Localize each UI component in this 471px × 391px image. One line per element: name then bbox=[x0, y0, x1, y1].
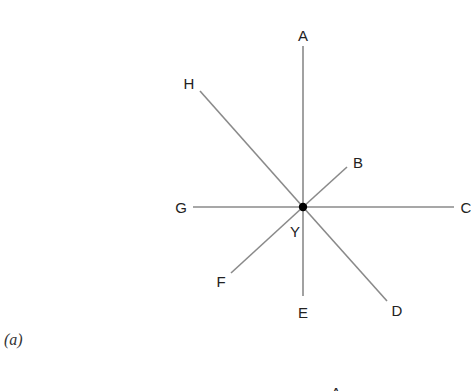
ray-y-d bbox=[303, 207, 387, 301]
next-figure-partial-label: A bbox=[331, 384, 341, 391]
point-label-h: H bbox=[184, 75, 195, 92]
ray-y-h bbox=[200, 91, 303, 207]
figure-caption: (a) bbox=[4, 331, 23, 349]
point-label-d: D bbox=[392, 302, 403, 319]
point-label-b: B bbox=[353, 154, 363, 171]
ray-y-b bbox=[303, 167, 347, 207]
center-point-y bbox=[299, 203, 307, 211]
point-label-f: F bbox=[216, 273, 225, 290]
ray-y-f bbox=[231, 207, 303, 273]
point-label-a: A bbox=[298, 27, 308, 44]
point-label-c: C bbox=[461, 199, 471, 216]
rays-group bbox=[193, 46, 454, 301]
labels-group: ABCDEFGH bbox=[175, 27, 471, 321]
center-label: Y bbox=[290, 223, 300, 240]
star-diagram: ABCDEFGH Y (a) A bbox=[0, 0, 471, 391]
point-label-g: G bbox=[175, 199, 187, 216]
point-label-e: E bbox=[298, 304, 308, 321]
